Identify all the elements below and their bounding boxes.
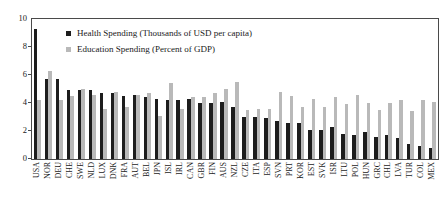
y-axis-tick-10: 10 xyxy=(19,13,32,23)
bar-education xyxy=(169,83,173,159)
x-axis-label: JPN xyxy=(153,162,164,214)
bar-education xyxy=(323,107,327,159)
x-axis-label: USA xyxy=(32,162,43,214)
x-axis-label: FIN xyxy=(208,162,219,214)
x-axis-label: GBR xyxy=(197,162,208,214)
y-axis-tick-0: 0 xyxy=(23,153,31,163)
x-axis-label-text: ITA xyxy=(253,162,261,175)
bar-education xyxy=(103,109,107,159)
bar-group xyxy=(262,19,273,159)
x-axis-label: COL xyxy=(416,162,427,214)
bar-group xyxy=(339,19,350,159)
x-axis-label-text: ESP xyxy=(264,162,272,176)
bar-group xyxy=(328,19,339,159)
x-axis-label-text: HUN xyxy=(363,162,371,179)
bar-group xyxy=(317,19,328,159)
legend-swatch-education-icon xyxy=(66,47,71,52)
x-axis-label: IRL xyxy=(175,162,186,214)
x-axis-label: CZE xyxy=(240,162,251,214)
bar-education xyxy=(191,97,195,159)
legend-swatch-health-icon xyxy=(66,31,71,36)
x-axis-label: PRT xyxy=(284,162,295,214)
x-axis-label-text: ISR xyxy=(330,162,338,174)
bar-education xyxy=(301,107,305,159)
x-axis-label-text: GRC xyxy=(374,162,382,178)
x-axis-label-text: LTU xyxy=(341,162,349,177)
bar-group xyxy=(43,19,54,159)
x-axis-label: AUS xyxy=(218,162,229,214)
bar-education xyxy=(114,92,118,159)
x-axis-label-text: CHE xyxy=(66,162,74,178)
x-axis-label: KOR xyxy=(295,162,306,214)
bar-education xyxy=(388,103,392,159)
bar-education xyxy=(180,109,184,159)
bar-group xyxy=(427,19,438,159)
x-axis-label-text: COL xyxy=(417,162,425,178)
bar-group xyxy=(295,19,306,159)
bar-education xyxy=(158,116,162,159)
x-axis-label: BEL xyxy=(142,162,153,214)
legend: Health Spending (Thousands of USD per ca… xyxy=(66,27,252,59)
x-axis-label-text: MEX xyxy=(428,162,436,180)
bar-education xyxy=(257,109,261,159)
bar-group xyxy=(251,19,262,159)
x-axis-label: DEU xyxy=(54,162,65,214)
x-axis-label-text: FIN xyxy=(209,162,217,175)
bar-group xyxy=(32,19,43,159)
y-axis-tick-6: 6 xyxy=(23,69,31,79)
bar-education xyxy=(399,100,403,159)
x-axis-label-text: JPN xyxy=(154,162,162,175)
x-axis-label: SVK xyxy=(317,162,328,214)
bar-education xyxy=(312,99,316,159)
x-axis-label: CHE xyxy=(65,162,76,214)
x-axis-label-text: KOR xyxy=(297,162,305,179)
x-axis-label: MEX xyxy=(427,162,438,214)
bar-education xyxy=(334,97,338,159)
bar-education xyxy=(59,100,63,159)
bar-group xyxy=(383,19,394,159)
bar-chart: 0246810 USANORDEUCHESWENLDLUXDNKFRAAUTBE… xyxy=(0,0,448,215)
bar-education xyxy=(279,92,283,159)
x-axis-label-text: BEL xyxy=(143,162,151,177)
bar-group xyxy=(361,19,372,159)
bar-education xyxy=(410,111,414,159)
bar-group xyxy=(284,19,295,159)
x-axis-label: POL xyxy=(350,162,361,214)
y-axis-tick-4: 4 xyxy=(23,97,31,107)
x-axis-label: GRC xyxy=(372,162,383,214)
x-axis-label: NOR xyxy=(43,162,54,214)
x-axis-label-text: TUR xyxy=(406,162,414,178)
x-axis-label: NLD xyxy=(87,162,98,214)
bar-education xyxy=(136,95,140,159)
bar-group xyxy=(405,19,416,159)
legend-label-health: Health Spending (Thousands of USD per ca… xyxy=(77,27,252,40)
x-axis-label: NZL xyxy=(229,162,240,214)
bar-education xyxy=(356,95,360,159)
bar-education xyxy=(70,96,74,159)
x-axis-label: TUR xyxy=(405,162,416,214)
x-axis-label-text: IRL xyxy=(176,162,184,175)
x-axis-label: ITA xyxy=(251,162,262,214)
x-axis-label-text: AUS xyxy=(220,162,228,178)
y-axis-tick-8: 8 xyxy=(23,41,31,51)
bar-education xyxy=(92,95,96,159)
bar-education xyxy=(147,93,151,159)
y-axis-tick-2: 2 xyxy=(23,125,31,135)
bar-group xyxy=(372,19,383,159)
x-axis-label-text: CZE xyxy=(242,162,250,177)
x-axis-label-text: NOR xyxy=(44,162,52,179)
x-axis-label: SWE xyxy=(76,162,87,214)
x-axis-label: EST xyxy=(306,162,317,214)
x-axis-label-text: NLD xyxy=(88,162,96,178)
x-axis-label-text: GBR xyxy=(198,162,206,178)
x-axis-label-text: POL xyxy=(352,162,360,177)
bar-group xyxy=(350,19,361,159)
x-axis-label: ISR xyxy=(328,162,339,214)
x-axis-label-text: ISL xyxy=(165,162,173,174)
bar-education xyxy=(37,100,41,159)
x-axis-label: FRA xyxy=(120,162,131,214)
bar-education xyxy=(202,97,206,159)
x-axis-label-text: LVA xyxy=(395,162,403,177)
bar-group xyxy=(394,19,405,159)
bar-education xyxy=(421,100,425,159)
